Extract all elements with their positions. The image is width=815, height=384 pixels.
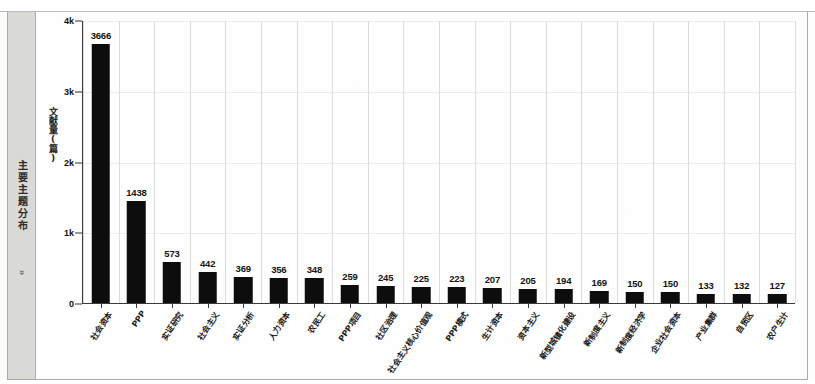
scanned-page: 主要主题分布 » 文献量(篇) 01k2k3k4k 36661438573442… <box>0 0 815 384</box>
bar-slot[interactable]: 442 <box>190 20 226 303</box>
bar-value-label: 223 <box>449 273 464 284</box>
x-axis-tick-mark <box>706 304 707 308</box>
bar-value-label: 133 <box>698 280 713 291</box>
bar-chart: 文献量(篇) 01k2k3k4k 36661438573442369356348… <box>36 12 807 379</box>
bar-slot[interactable]: 3666 <box>83 20 119 303</box>
bar-slot[interactable]: 356 <box>261 20 297 303</box>
y-axis-tick-mark <box>75 162 82 163</box>
bar[interactable] <box>376 286 395 303</box>
bar-value-label: 245 <box>378 272 393 283</box>
x-axis-tick-mark <box>279 304 280 308</box>
bar[interactable] <box>768 294 787 303</box>
x-axis-category-label: 新型城镇化建设 <box>536 309 576 362</box>
bar-slot[interactable]: 205 <box>510 20 546 303</box>
sidebar-title: 主要主题分布 <box>8 12 36 379</box>
scan-bottom-edge <box>0 380 815 384</box>
bar-value-label: 132 <box>734 280 749 291</box>
x-axis-tick-mark <box>564 304 565 308</box>
x-axis-tick-mark <box>350 304 351 308</box>
y-axis-label: 文献量(篇) <box>44 107 58 163</box>
bar-value-label: 369 <box>236 263 251 274</box>
bar-slot[interactable]: 207 <box>475 20 511 303</box>
x-axis-tick-mark <box>777 304 778 308</box>
x-axis-category-label: 农民工 <box>305 309 328 335</box>
bar-slot[interactable]: 169 <box>581 20 617 303</box>
y-axis-tick-label: 2k <box>64 158 74 168</box>
bar-slot[interactable]: 369 <box>225 20 261 303</box>
bar-slot[interactable]: 223 <box>439 20 475 303</box>
x-axis-category-label: 实证分析 <box>229 309 256 342</box>
bar-value-label: 3666 <box>91 30 111 41</box>
x-axis-category-label: 社会主义 <box>194 309 221 342</box>
x-axis-category-label: 新制度经济学 <box>612 309 648 355</box>
bar[interactable] <box>163 262 182 303</box>
x-axis-tick-mark <box>457 304 458 308</box>
x-axis-tick-mark <box>599 304 600 308</box>
x-axis-category-label: PPP项目 <box>335 309 363 343</box>
bar-slot[interactable]: 127 <box>759 20 795 303</box>
bar-slot[interactable]: 259 <box>332 20 368 303</box>
bar-value-label: 442 <box>200 258 215 269</box>
x-axis-category-label: PPP模式 <box>442 309 470 343</box>
bar-value-label: 1438 <box>126 187 146 198</box>
bar-value-label: 207 <box>485 274 500 285</box>
bar-slot[interactable]: 348 <box>297 20 333 303</box>
bar-slot[interactable]: 225 <box>403 20 439 303</box>
bar-slot[interactable]: 245 <box>368 20 404 303</box>
bar[interactable] <box>234 277 253 303</box>
y-axis-tick-label: 4k <box>64 16 74 26</box>
bar-value-label: 169 <box>592 277 607 288</box>
x-axis-category-label: 产业集群 <box>692 309 719 342</box>
bar[interactable] <box>127 201 146 303</box>
bar-value-label: 259 <box>342 271 357 282</box>
bar[interactable] <box>732 294 751 303</box>
x-axis-category-label: 新制度主义 <box>581 309 612 348</box>
x-axis-category-label: 农户生计 <box>763 309 790 342</box>
x-axis-tick-mark <box>314 304 315 308</box>
bar[interactable] <box>198 272 217 303</box>
bar-slot[interactable]: 573 <box>154 20 190 303</box>
x-axis-category-label: 自贸区 <box>732 309 755 335</box>
x-axis-category-label: 企业社会资本 <box>648 309 684 355</box>
bar[interactable] <box>270 278 289 303</box>
x-axis-tick-mark <box>386 304 387 308</box>
x-axis-tick-mark <box>136 304 137 308</box>
bar-slot[interactable]: 133 <box>688 20 724 303</box>
y-axis-tick-mark <box>75 91 82 92</box>
bar[interactable] <box>554 289 573 303</box>
bar[interactable] <box>92 44 111 303</box>
bar[interactable] <box>661 292 680 303</box>
bar[interactable] <box>626 292 645 303</box>
bar-slot[interactable]: 150 <box>617 20 653 303</box>
plot-area: 3666143857344236935634825924522522320720… <box>83 21 795 304</box>
bar[interactable] <box>519 289 538 304</box>
bar[interactable] <box>590 291 609 303</box>
bar[interactable] <box>697 294 716 303</box>
x-axis-tick-mark <box>742 304 743 308</box>
x-axis-tick-mark <box>670 304 671 308</box>
bar[interactable] <box>341 285 360 303</box>
x-axis-category-label: 社会资本 <box>87 309 114 342</box>
bar-value-label: 150 <box>663 278 678 289</box>
y-axis-tick-mark <box>75 233 82 234</box>
x-axis-tick-mark <box>243 304 244 308</box>
bar[interactable] <box>483 288 502 303</box>
sidebar-title-text: 主要主题分布 <box>15 160 30 232</box>
bar[interactable] <box>412 287 431 303</box>
x-axis-tick-mark <box>635 304 636 308</box>
x-axis-category-label: PPP <box>131 309 148 329</box>
bar-value-label: 573 <box>164 248 179 259</box>
x-axis-category-label: 资本主义 <box>514 309 541 342</box>
x-axis-tick-mark <box>208 304 209 308</box>
bar-slot[interactable]: 132 <box>724 20 760 303</box>
bar-slot[interactable]: 1438 <box>119 20 155 303</box>
bar-slot[interactable]: 194 <box>546 20 582 303</box>
x-axis-tick-mark <box>528 304 529 308</box>
bar[interactable] <box>305 278 324 303</box>
sidebar-panel[interactable]: 主要主题分布 » <box>8 12 36 379</box>
bar-slot[interactable]: 150 <box>653 20 689 303</box>
y-axis-tick-label: 1k <box>64 228 74 238</box>
y-axis-tick-mark <box>75 304 82 305</box>
bar[interactable] <box>448 287 467 303</box>
chevron-right-icon[interactable]: » <box>17 270 27 275</box>
